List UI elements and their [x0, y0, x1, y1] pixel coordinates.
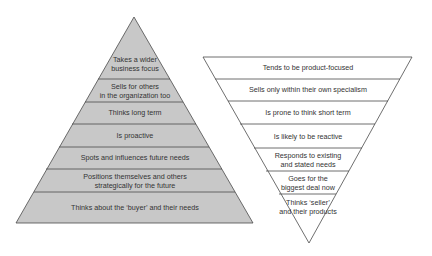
right-band-4: Is likely to be reactive — [274, 133, 343, 142]
right-band-6: Goes for the biggest deal now — [281, 175, 335, 192]
left-band-4: Is proactive — [117, 132, 154, 141]
right-band-1: Tends to be product-focused — [263, 64, 354, 73]
left-band-3: Thinks long term — [108, 109, 161, 118]
left-band-6: Positions themselves and others strategi… — [83, 173, 186, 190]
right-band-7: Thinks ‘seller’ and their products — [279, 199, 337, 216]
left-band-7: Thinks about the ‘buyer’ and their needs — [71, 204, 199, 213]
right-band-3: Is prone to think short term — [265, 109, 351, 118]
diagram-canvas — [0, 0, 432, 256]
left-band-2: Sells for others in the organization too — [100, 83, 171, 100]
left-band-1: Takes a wider business focus — [111, 56, 159, 73]
left-band-5: Spots and influences future needs — [81, 154, 190, 163]
right-band-2: Sells only within their own specialism — [249, 86, 367, 95]
right-band-5: Responds to existing and stated needs — [275, 152, 342, 169]
